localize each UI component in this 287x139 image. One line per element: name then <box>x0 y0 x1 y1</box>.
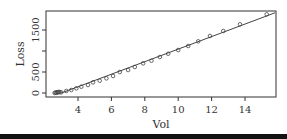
x-tick-label: 10 <box>172 104 185 115</box>
y-tick-label: 0 <box>30 90 41 96</box>
y-tick-label: 1500 <box>30 17 41 42</box>
y-axis-label: Loss <box>14 41 27 67</box>
x-axis: 468101214 <box>75 97 252 115</box>
x-tick-label: 12 <box>205 104 218 115</box>
data-points <box>53 13 269 95</box>
y-axis: 05001500 <box>30 17 46 96</box>
x-axis-label: Vol <box>151 118 170 131</box>
x-tick-label: 4 <box>75 104 81 115</box>
x-tick-label: 8 <box>142 104 148 115</box>
data-point <box>98 79 102 83</box>
scatter-plot: 468101214 05001500 Vol Loss <box>0 0 287 134</box>
bottom-border-bar <box>0 134 287 139</box>
x-tick-label: 6 <box>108 104 114 115</box>
data-point <box>111 74 115 78</box>
x-tick-label: 14 <box>239 104 252 115</box>
data-point <box>86 83 90 87</box>
y-tick-label: 500 <box>30 62 41 81</box>
data-point <box>126 68 130 72</box>
data-point <box>105 77 109 81</box>
